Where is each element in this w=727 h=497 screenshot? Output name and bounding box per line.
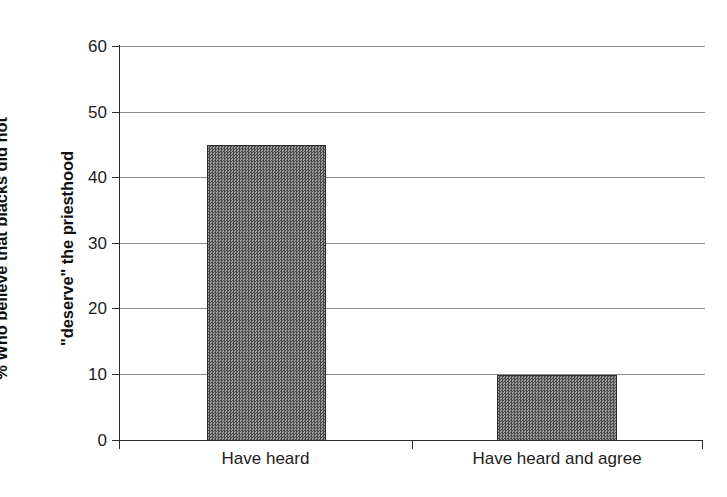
x-tick-mark-left — [119, 440, 120, 449]
y-axis-tick-labels: 60 50 40 30 20 10 0 — [45, 0, 107, 497]
x-category-label-have-heard: Have heard — [119, 450, 412, 469]
y-tick-label-0: 0 — [49, 432, 107, 449]
y-tick-label-30: 30 — [49, 235, 107, 252]
bar-chart: % Who believe that blacks did not "deser… — [0, 0, 727, 497]
bar-have-heard-and-agree[interactable] — [497, 375, 617, 441]
plot-area — [120, 46, 705, 440]
y-axis-line — [119, 45, 120, 441]
y-tick-label-10: 10 — [49, 366, 107, 383]
bar-have-heard[interactable] — [207, 145, 326, 441]
x-category-label-have-heard-and-agree: Have heard and agree — [412, 450, 702, 469]
gridline-50 — [120, 112, 705, 113]
y-tick-label-50: 50 — [49, 104, 107, 121]
x-tick-mark-right — [702, 440, 703, 449]
x-axis-line — [119, 440, 703, 441]
y-tick-label-40: 40 — [49, 169, 107, 186]
y-axis-title-line-1: % Who believe that blacks did not — [0, 117, 13, 380]
x-tick-mark-middle — [412, 440, 413, 449]
y-tick-label-60: 60 — [49, 38, 107, 55]
gridline-60 — [120, 46, 705, 47]
y-tick-label-20: 20 — [49, 300, 107, 317]
